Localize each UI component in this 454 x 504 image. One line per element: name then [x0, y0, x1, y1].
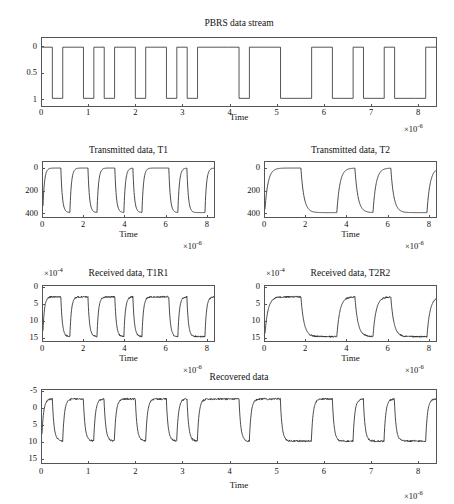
x-tick-mark-t2-2 — [346, 215, 347, 218]
x-axis-label-t2r2: Time — [264, 353, 437, 363]
x-tick-label-recovered-2: 2 — [123, 467, 147, 476]
x-tick-mark-pbrs-8 — [418, 104, 419, 107]
y-tick-mark-pbrs-1 — [41, 73, 44, 74]
y-tick-label-pbrs-1: 0.5 — [11, 68, 37, 77]
y-tick-mark-t1r1-1 — [42, 321, 45, 322]
y-tick-label-recovered-1: 10 — [11, 437, 37, 446]
data-series-t1 — [43, 168, 214, 213]
y-tick-label-t1r1-2: 5 — [12, 299, 38, 308]
x-tick-label-recovered-5: 5 — [265, 467, 289, 476]
x-tick-label-t2r2-4: 8 — [417, 344, 441, 353]
chart-title-t2r2: Received data, T2R2 — [264, 268, 437, 278]
y-tick-mark-pbrs-0 — [41, 99, 44, 100]
x-tick-label-t2-3: 6 — [376, 220, 400, 229]
y-axis-exponent-t1r1: ×10-4 — [44, 266, 63, 278]
x-tick-label-t2-2: 4 — [334, 220, 358, 229]
y-tick-label-t1r1-1: 10 — [12, 316, 38, 325]
chart-title-t1r1: Received data, T1R1 — [42, 268, 215, 278]
x-axis-label-t2: Time — [264, 229, 437, 239]
x-tick-label-t1-4: 8 — [195, 220, 219, 229]
x-tick-label-recovered-7: 7 — [359, 467, 383, 476]
y-tick-mark-recovered-2 — [41, 425, 44, 426]
y-tick-mark-t2r2-2 — [264, 304, 267, 305]
x-axis-label-t1: Time — [42, 229, 215, 239]
x-axis-label-pbrs: Time — [41, 112, 437, 122]
x-axis-label-recovered: Time — [41, 480, 437, 490]
y-tick-mark-t2-1 — [264, 191, 267, 192]
y-tick-mark-pbrs-2 — [41, 46, 44, 47]
data-series-pbrs — [42, 47, 436, 98]
x-tick-mark-t1r1-0 — [42, 339, 43, 342]
x-tick-mark-pbrs-5 — [277, 104, 278, 107]
x-tick-mark-recovered-0 — [41, 461, 42, 464]
chart-title-t1: Transmitted data, T1 — [42, 145, 215, 155]
x-tick-mark-recovered-8 — [418, 461, 419, 464]
y-tick-label-t2r2-0: 15 — [234, 333, 260, 342]
x-tick-label-t2r2-0: 0 — [252, 344, 276, 353]
x-tick-mark-t2-3 — [388, 215, 389, 218]
y-tick-mark-t1r1-3 — [42, 287, 45, 288]
x-tick-mark-t1-0 — [42, 215, 43, 218]
x-tick-mark-t2r2-1 — [305, 339, 306, 342]
x-tick-mark-t1r1-3 — [166, 339, 167, 342]
x-tick-mark-t2r2-2 — [346, 339, 347, 342]
y-tick-mark-t1r1-2 — [42, 304, 45, 305]
x-axis-exponent-t2: ×10-6 — [405, 239, 424, 251]
y-tick-label-t1r1-3: 0 — [12, 282, 38, 291]
x-tick-mark-t1-3 — [166, 215, 167, 218]
x-tick-mark-recovered-7 — [371, 461, 372, 464]
x-tick-mark-pbrs-1 — [88, 104, 89, 107]
x-tick-mark-t2r2-0 — [264, 339, 265, 342]
y-tick-label-t1-2: 0 — [12, 163, 38, 172]
y-tick-label-recovered-2: 5 — [11, 420, 37, 429]
y-tick-label-t2-2: 0 — [234, 163, 260, 172]
x-tick-label-t2r2-2: 4 — [334, 344, 358, 353]
y-tick-label-recovered-4: -5 — [11, 386, 37, 395]
x-tick-mark-t1r1-1 — [83, 339, 84, 342]
x-tick-label-t1-2: 4 — [112, 220, 136, 229]
y-tick-label-t2-0: 400 — [234, 209, 260, 218]
y-tick-label-t2-1: 200 — [234, 186, 260, 195]
x-tick-mark-t1r1-4 — [207, 339, 208, 342]
y-tick-label-t1-0: 400 — [12, 209, 38, 218]
chart-title-t2: Transmitted data, T2 — [264, 145, 437, 155]
chart-title-pbrs: PBRS data stream — [41, 18, 437, 28]
y-tick-label-t2r2-2: 5 — [234, 299, 260, 308]
x-tick-mark-recovered-5 — [277, 461, 278, 464]
y-tick-label-pbrs-0: 1 — [11, 95, 37, 104]
x-tick-mark-recovered-4 — [230, 461, 231, 464]
data-series-t1r1 — [43, 296, 214, 337]
x-tick-label-recovered-4: 4 — [218, 467, 242, 476]
x-tick-label-recovered-6: 6 — [312, 467, 336, 476]
x-tick-label-t2-1: 2 — [293, 220, 317, 229]
y-tick-mark-recovered-0 — [41, 459, 44, 460]
plot-area-pbrs — [41, 37, 437, 107]
x-tick-label-t1r1-0: 0 — [30, 344, 54, 353]
x-tick-label-recovered-1: 1 — [76, 467, 100, 476]
data-series-t2r2 — [265, 296, 436, 337]
x-tick-label-t1r1-4: 8 — [195, 344, 219, 353]
x-tick-mark-t1-1 — [83, 215, 84, 218]
y-axis-exponent-t2r2: ×10-4 — [266, 266, 285, 278]
y-tick-mark-recovered-4 — [41, 391, 44, 392]
x-tick-label-recovered-3: 3 — [170, 467, 194, 476]
data-series-recovered — [42, 398, 436, 442]
x-tick-mark-t1-2 — [124, 215, 125, 218]
x-tick-label-t2-4: 8 — [417, 220, 441, 229]
y-tick-label-pbrs-2: 0 — [11, 42, 37, 51]
x-tick-mark-pbrs-3 — [182, 104, 183, 107]
y-tick-label-recovered-0: 15 — [11, 454, 37, 463]
x-tick-mark-recovered-6 — [324, 461, 325, 464]
x-tick-mark-t1r1-2 — [124, 339, 125, 342]
x-tick-mark-pbrs-4 — [230, 104, 231, 107]
x-tick-label-t1r1-2: 4 — [112, 344, 136, 353]
y-tick-mark-t2-2 — [264, 168, 267, 169]
y-tick-mark-t1-2 — [42, 168, 45, 169]
x-tick-label-recovered-0: 0 — [29, 467, 53, 476]
x-tick-label-t1-1: 2 — [71, 220, 95, 229]
x-axis-exponent-pbrs: ×10-6 — [404, 122, 423, 134]
plot-area-t2r2 — [264, 285, 437, 342]
y-tick-mark-t2r2-3 — [264, 287, 267, 288]
x-tick-mark-t2r2-3 — [388, 339, 389, 342]
y-tick-mark-recovered-3 — [41, 408, 44, 409]
